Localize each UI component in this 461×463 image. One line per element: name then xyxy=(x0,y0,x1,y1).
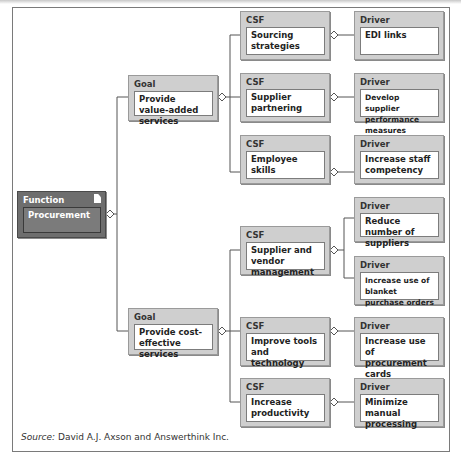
csf-label: Supplier partnering xyxy=(246,89,325,117)
csf-box: CSF Supplier partnering xyxy=(240,73,330,122)
driver-header: Driver xyxy=(355,136,443,150)
function-label: Procurement xyxy=(23,207,101,233)
driver-box: Driver Develop supplier performance meas… xyxy=(354,73,444,122)
goal-box: Goal Provide value-added services xyxy=(128,75,218,121)
csf-label: Employee skills xyxy=(246,151,325,179)
csf-header: CSF xyxy=(241,74,329,88)
goal-header: Goal xyxy=(129,309,217,323)
csf-box: CSF Supplier and vendor management xyxy=(240,226,330,275)
driver-box: Driver EDI links xyxy=(354,11,444,60)
driver-label: Develop supplier performance measures xyxy=(360,89,439,117)
driver-header: Driver xyxy=(355,12,443,26)
function-header: Function xyxy=(18,192,105,206)
driver-label: Increase use of blanket purchase orders xyxy=(360,272,439,300)
driver-label: Reduce number of suppliers xyxy=(360,213,439,237)
goal-box: Goal Provide cost-effective services xyxy=(128,308,218,355)
csf-header: CSF xyxy=(241,379,329,393)
csf-label: Sourcing strategies xyxy=(246,27,325,55)
csf-header: CSF xyxy=(241,12,329,26)
csf-box: CSF Sourcing strategies xyxy=(240,11,330,60)
goal-label: Provide value-added services xyxy=(134,91,213,116)
source-text: David A.J. Axson and Answerthink Inc. xyxy=(55,432,229,442)
driver-header: Driver xyxy=(355,318,443,332)
csf-header: CSF xyxy=(241,318,329,332)
csf-header: CSF xyxy=(241,136,329,150)
driver-header: Driver xyxy=(355,74,443,88)
driver-label: Increase use of procurement cards xyxy=(360,333,439,361)
driver-label: Increase staff competency xyxy=(360,151,439,179)
driver-header: Driver xyxy=(355,198,443,212)
csf-box: CSF Improve tools and technology xyxy=(240,317,330,366)
source-note: Source: David A.J. Axson and Answerthink… xyxy=(21,432,229,442)
driver-box: Driver Increase use of blanket purchase … xyxy=(354,256,444,305)
driver-label: EDI links xyxy=(360,27,439,55)
source-label: Source: xyxy=(21,432,55,442)
driver-label: Minimize manual processing xyxy=(360,394,439,422)
function-box: Function Procurement xyxy=(17,191,106,238)
goal-label: Provide cost-effective services xyxy=(134,324,213,350)
csf-box: CSF Increase productivity xyxy=(240,378,330,427)
driver-header: Driver xyxy=(355,257,443,271)
driver-box: Driver Minimize manual processing xyxy=(354,378,444,427)
driver-header: Driver xyxy=(355,379,443,393)
goal-header: Goal xyxy=(129,76,217,90)
csf-label: Supplier and vendor management xyxy=(246,242,325,270)
driver-box: Driver Reduce number of suppliers xyxy=(354,197,444,242)
driver-box: Driver Increase use of procurement cards xyxy=(354,317,444,366)
csf-label: Improve tools and technology xyxy=(246,333,325,361)
csf-label: Increase productivity xyxy=(246,394,325,422)
driver-box: Driver Increase staff competency xyxy=(354,135,444,184)
csf-box: CSF Employee skills xyxy=(240,135,330,184)
csf-header: CSF xyxy=(241,227,329,241)
